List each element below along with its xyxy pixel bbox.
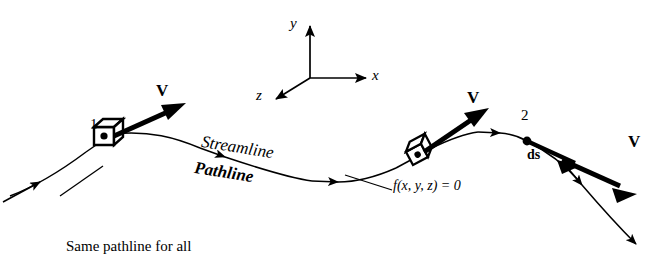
- inflow-path-upper: [10, 152, 86, 196]
- velocity-label-point-2: V: [628, 132, 640, 151]
- caption-line-1: Same pathline for all: [66, 237, 191, 256]
- velocity-vector-3: [562, 160, 637, 203]
- y-axis-label: y: [290, 15, 297, 32]
- ds-label: ds: [527, 147, 540, 163]
- point-2-label: 2: [521, 107, 529, 124]
- streamline-arrow-4: [478, 132, 500, 133]
- point-1-label: 1: [90, 116, 98, 133]
- inflow-path-lower: [3, 182, 40, 202]
- coordinate-axes: [276, 26, 366, 99]
- streamline-arrow-2: [312, 181, 338, 182]
- diagram-caption: Same pathline for all fluid elements goi…: [66, 199, 191, 275]
- surface-equation-label: f(x, y, z) = 0: [393, 178, 461, 194]
- streamline-segment-1: [112, 133, 200, 148]
- velocity-vector-3-head: [612, 188, 637, 203]
- velocity-vector-1: [114, 103, 186, 136]
- z-axis-line: [276, 78, 310, 99]
- cube-1-center-dot: [100, 132, 107, 139]
- velocity-label-midpoint: V: [467, 88, 479, 107]
- caption-leader-line: [60, 166, 103, 196]
- z-axis-label: z: [256, 87, 262, 104]
- x-axis-label: x: [372, 67, 379, 84]
- velocity-label-point-1: V: [156, 81, 168, 100]
- fluid-streamline-diagram: y x z V V V 1 2 ds Streamline Pathline f…: [0, 0, 661, 275]
- velocity-vector-2: [424, 108, 489, 152]
- velocity-vector-1-head: [161, 103, 186, 120]
